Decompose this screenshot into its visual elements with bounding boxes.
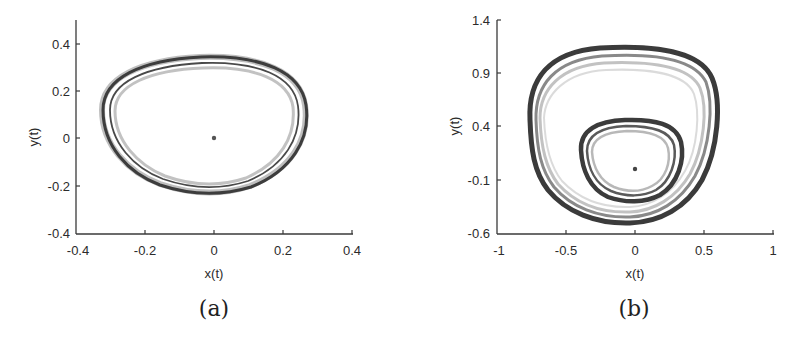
x-tick-label: -0.2 bbox=[134, 243, 156, 258]
inner-cycle-band bbox=[581, 120, 682, 201]
y-tick-label: 0.9 bbox=[472, 66, 490, 81]
y-tick-label: 1.4 bbox=[472, 13, 490, 28]
x-axis-label: x(t) bbox=[626, 266, 645, 281]
outer-cycle-band bbox=[530, 47, 718, 223]
x-tick-label: 0.2 bbox=[274, 243, 292, 258]
x-axis-label: x(t) bbox=[205, 266, 224, 281]
fixed-point-marker bbox=[633, 167, 637, 171]
x-tick-label: 0.5 bbox=[695, 243, 713, 258]
x-tick-label: 0.4 bbox=[343, 243, 361, 258]
y-tick-label: 0.4 bbox=[52, 37, 70, 52]
y-tick-label: 0 bbox=[63, 131, 70, 146]
x-tick-label: 0 bbox=[631, 243, 638, 258]
panel-a: 0.4 0.2 0 -0.2 -0.4 -0.4 -0.2 0 0.2 0.4 … bbox=[26, 20, 361, 321]
x-tick-label: -1 bbox=[493, 243, 505, 258]
panel-caption: (b) bbox=[618, 296, 649, 321]
limit-cycle-band bbox=[102, 57, 307, 193]
y-tick-label: -0.2 bbox=[48, 179, 70, 194]
x-tick-label: -0.5 bbox=[555, 243, 577, 258]
y-axis-label: y(t) bbox=[447, 117, 462, 136]
panel-caption: (a) bbox=[199, 296, 229, 321]
y-tick-label: -0.6 bbox=[468, 226, 490, 241]
y-tick-label: 0.2 bbox=[52, 84, 70, 99]
y-tick-label: -0.4 bbox=[48, 226, 70, 241]
y-axis-label: y(t) bbox=[26, 128, 41, 147]
x-tick-label: 1 bbox=[769, 243, 776, 258]
y-tick-label: -0.1 bbox=[468, 173, 490, 188]
figure: 0.4 0.2 0 -0.2 -0.4 -0.4 -0.2 0 0.2 0.4 … bbox=[0, 0, 798, 342]
x-tick-label: -0.4 bbox=[67, 243, 89, 258]
fixed-point-marker bbox=[212, 136, 216, 140]
y-tick-label: 0.4 bbox=[472, 119, 490, 134]
panel-b: 1.4 0.9 0.4 -0.1 -0.6 -1 -0.5 0 0.5 1 x(… bbox=[447, 13, 777, 321]
x-tick-label: 0 bbox=[210, 243, 217, 258]
